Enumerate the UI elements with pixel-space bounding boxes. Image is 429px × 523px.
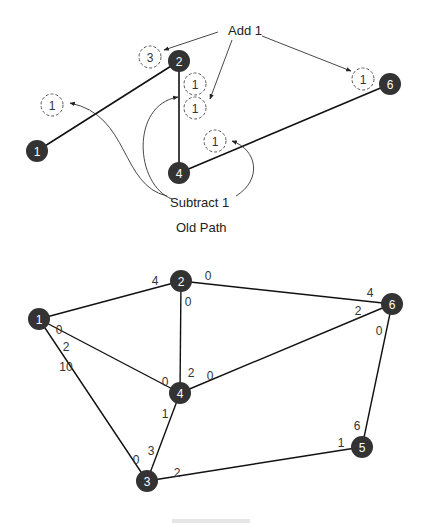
old-path-dashed-markers: 131111 xyxy=(41,46,374,152)
edge-weight-label: 1 xyxy=(338,436,345,450)
marker-label: 1 xyxy=(360,73,367,87)
dashed-marker: 1 xyxy=(184,97,206,119)
node-label: 1 xyxy=(36,313,43,327)
edge-weight-label: 4 xyxy=(152,274,159,288)
edge-weight-label: 0 xyxy=(207,369,214,383)
cropped-caption xyxy=(172,519,250,523)
edge-weight-label: 2 xyxy=(174,466,181,480)
subtract-1-label: Subtract 1 xyxy=(170,195,229,210)
old-path-node-4: 4 xyxy=(168,162,190,184)
marker-label: 1 xyxy=(192,78,199,92)
new-network-nodes: 123456 xyxy=(28,270,403,492)
old-path-node-6: 6 xyxy=(379,73,401,95)
new-network-node-1: 1 xyxy=(28,308,50,330)
node-label: 4 xyxy=(176,167,183,181)
edge-2-6 xyxy=(181,281,392,304)
dashed-marker: 1 xyxy=(352,68,374,90)
old-path-node-2: 2 xyxy=(168,50,190,72)
node-label: 1 xyxy=(34,145,41,159)
node-label: 6 xyxy=(389,298,396,312)
add-1-label: Add 1 xyxy=(228,23,262,38)
node-label: 2 xyxy=(176,55,183,69)
edge-2-4 xyxy=(180,281,181,393)
new-network-edges xyxy=(39,281,392,481)
dashed-marker: 3 xyxy=(139,46,161,68)
edge-weight-label: 10 xyxy=(59,360,73,374)
node-label: 4 xyxy=(177,387,184,401)
new-network-diagram: 0400210020420130261 123456 xyxy=(28,269,403,523)
edge-weight-label: 4 xyxy=(367,286,374,300)
edge-weight-label: 3 xyxy=(148,444,155,458)
new-network-node-6: 6 xyxy=(381,293,403,315)
edge-1-2 xyxy=(39,281,181,319)
add-arrow-to-lower-1 xyxy=(210,40,232,99)
edge-1-3 xyxy=(39,319,147,481)
node-label: 3 xyxy=(144,475,151,489)
edge-weight-label: 0 xyxy=(205,269,212,283)
new-network-node-2: 2 xyxy=(170,270,192,292)
edge-weight-label: 2 xyxy=(63,340,70,354)
old-path-nodes: 1246 xyxy=(26,50,401,184)
network-diagram: 131111 1246 Add 1 Subtract 1 Old Path 04… xyxy=(0,0,429,523)
marker-label: 1 xyxy=(192,102,199,116)
dashed-marker: 1 xyxy=(41,94,63,116)
new-network-node-4: 4 xyxy=(169,382,191,404)
edge-weight-label: 2 xyxy=(355,304,362,318)
edge-weight-label: 1 xyxy=(162,407,169,421)
dashed-marker: 1 xyxy=(184,73,206,95)
edge-weight-label: 0 xyxy=(376,324,383,338)
node-label: 2 xyxy=(178,275,185,289)
edge-weight-label: 0 xyxy=(133,453,140,467)
add-arrow-to-3 xyxy=(164,32,218,50)
dashed-marker: 1 xyxy=(204,130,226,152)
marker-label: 3 xyxy=(147,51,154,65)
marker-label: 1 xyxy=(212,135,219,149)
subtract-curve-to-2-4-edge xyxy=(143,97,178,199)
edge-weight-label: 0 xyxy=(162,375,169,389)
new-network-node-3: 3 xyxy=(136,470,158,492)
marker-label: 1 xyxy=(49,99,56,113)
edge-weight-label: 0 xyxy=(185,295,192,309)
old-path-edges xyxy=(37,61,390,173)
new-network-node-5: 5 xyxy=(351,436,373,458)
node-label: 5 xyxy=(359,441,366,455)
old-path-diagram: 131111 1246 Add 1 Subtract 1 Old Path xyxy=(26,23,401,235)
add-arrow-to-6-marker xyxy=(262,36,351,71)
old-path-caption: Old Path xyxy=(176,220,227,235)
edge-weight-label: 0 xyxy=(56,323,63,337)
old-path-node-1: 1 xyxy=(26,140,48,162)
edge-weight-label: 6 xyxy=(354,419,361,433)
node-label: 6 xyxy=(387,78,394,92)
new-network-edge-labels: 0400210020420130261 xyxy=(56,269,383,480)
edge-weight-label: 2 xyxy=(188,366,195,380)
